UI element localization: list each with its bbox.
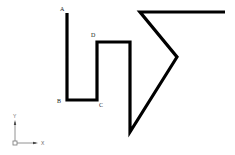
- label-b: B: [57, 98, 61, 104]
- y-axis-label: Y: [13, 113, 17, 119]
- ucs-axis-icon: [13, 120, 38, 145]
- ucs-origin-square: [13, 141, 17, 145]
- drawing-canvas[interactable]: A B C D Y X: [0, 0, 235, 155]
- x-axis-label: X: [41, 140, 45, 146]
- label-d: D: [91, 32, 96, 38]
- polyline-shape[interactable]: [67, 12, 225, 132]
- x-axis-arrow-icon: [33, 142, 38, 144]
- label-c: C: [99, 102, 103, 108]
- label-a: A: [60, 6, 65, 12]
- y-axis-arrow-icon: [14, 120, 16, 125]
